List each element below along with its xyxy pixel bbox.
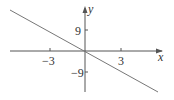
x-axis-label: x bbox=[158, 51, 163, 63]
tick-label-neg9: −9 bbox=[71, 67, 84, 79]
plot-area bbox=[0, 0, 174, 100]
tick-label-neg3: −3 bbox=[42, 55, 55, 67]
y-axis-label: y bbox=[88, 3, 93, 15]
y-axis-arrow-icon bbox=[83, 6, 88, 13]
tick-label-3: 3 bbox=[118, 55, 124, 67]
tick-label-9: 9 bbox=[75, 25, 81, 37]
